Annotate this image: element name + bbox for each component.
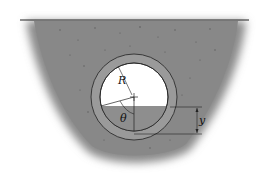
depth-label: y [198, 114, 206, 127]
angle-label: θ [120, 112, 127, 125]
pipe-diagram: R θ y [0, 0, 262, 176]
radius-label: R [117, 74, 126, 87]
